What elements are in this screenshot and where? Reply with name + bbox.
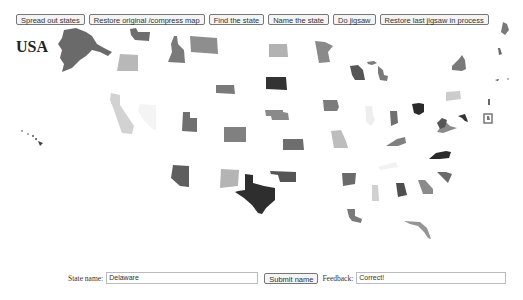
state-wyoming[interactable] bbox=[216, 85, 235, 94]
state-maryland[interactable] bbox=[458, 114, 468, 122]
state-georgia[interactable] bbox=[418, 180, 433, 194]
state-maine[interactable] bbox=[501, 22, 509, 35]
state-missouri[interactable] bbox=[331, 130, 348, 148]
state-new-hampshire[interactable] bbox=[498, 48, 502, 55]
state-texas[interactable] bbox=[235, 174, 275, 214]
state-oregon[interactable] bbox=[117, 54, 138, 71]
state-north-dakota[interactable] bbox=[269, 44, 288, 57]
submit-name-button[interactable]: Submit name bbox=[264, 273, 318, 284]
state-kentucky[interactable] bbox=[386, 137, 406, 146]
state-alabama[interactable] bbox=[396, 183, 407, 197]
state-new-mexico[interactable] bbox=[220, 169, 239, 188]
state-new-jersey[interactable] bbox=[488, 99, 490, 105]
state-south-carolina[interactable] bbox=[437, 172, 452, 183]
state-rhode-island[interactable] bbox=[507, 78, 509, 80]
state-nevada[interactable] bbox=[138, 104, 156, 130]
state-louisiana[interactable] bbox=[347, 209, 362, 223]
state-washington[interactable] bbox=[130, 28, 150, 41]
state-oklahoma[interactable] bbox=[270, 171, 296, 182]
state-massachusetts[interactable] bbox=[493, 71, 500, 75]
state-montana[interactable] bbox=[190, 36, 218, 54]
state-south-dakota[interactable] bbox=[266, 77, 287, 90]
state-california[interactable] bbox=[110, 93, 134, 134]
state-nebraska[interactable] bbox=[265, 110, 289, 120]
state-ohio[interactable] bbox=[412, 103, 424, 115]
state-michigan[interactable] bbox=[367, 61, 388, 81]
state-indiana[interactable] bbox=[390, 111, 398, 126]
state-north-carolina[interactable] bbox=[429, 151, 451, 159]
state-hawaii[interactable] bbox=[21, 130, 43, 146]
state-iowa[interactable] bbox=[323, 100, 339, 111]
state-arizona[interactable] bbox=[171, 165, 189, 187]
state-pennsylvania[interactable] bbox=[446, 91, 461, 101]
state-connecticut[interactable] bbox=[495, 79, 499, 81]
state-mississippi[interactable] bbox=[372, 185, 379, 201]
state-colorado[interactable] bbox=[224, 127, 246, 142]
state-minnesota[interactable] bbox=[315, 41, 333, 63]
state-name-input[interactable] bbox=[106, 272, 258, 284]
name-form: State name: Submit name Feedback: bbox=[68, 272, 506, 284]
state-name-label: State name: bbox=[68, 274, 103, 283]
feedback-field bbox=[356, 272, 506, 284]
state-alaska[interactable] bbox=[58, 28, 112, 72]
state-tennessee[interactable] bbox=[378, 162, 398, 170]
state-illinois[interactable] bbox=[365, 106, 375, 126]
state-wisconsin[interactable] bbox=[350, 65, 365, 80]
state-kansas[interactable] bbox=[283, 139, 304, 150]
us-map bbox=[0, 0, 523, 300]
state-idaho[interactable] bbox=[168, 36, 185, 63]
state-florida[interactable] bbox=[404, 221, 431, 239]
state-new-york[interactable] bbox=[452, 55, 466, 71]
state-utah[interactable] bbox=[182, 112, 197, 132]
state-arkansas[interactable] bbox=[342, 173, 356, 186]
feedback-label: Feedback: bbox=[322, 274, 353, 283]
